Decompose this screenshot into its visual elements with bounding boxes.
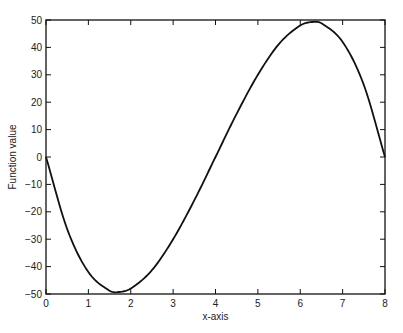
y-tick-label: −40: [25, 261, 42, 272]
y-tick-label: 40: [31, 42, 43, 53]
y-tick-label: −10: [25, 179, 42, 190]
x-tick-label: 3: [170, 298, 176, 309]
y-tick-label: −50: [25, 289, 42, 300]
y-axis-label: Function value: [7, 124, 18, 189]
y-tick-label: −30: [25, 234, 42, 245]
x-tick-label: 8: [382, 298, 388, 309]
x-tick-label: 6: [297, 298, 303, 309]
x-tick-label: 1: [86, 298, 92, 309]
x-tick-label: 7: [340, 298, 346, 309]
y-tick-label: 0: [36, 152, 42, 163]
x-tick-label: 2: [128, 298, 134, 309]
x-tick-label: 0: [43, 298, 49, 309]
y-tick-label: −20: [25, 206, 42, 217]
y-tick-label: 50: [31, 15, 43, 26]
x-tick-label: 5: [255, 298, 261, 309]
chart: 012345678−50−40−30−20−1001020304050x-axi…: [0, 0, 403, 333]
x-tick-label: 4: [213, 298, 219, 309]
y-tick-label: 20: [31, 97, 43, 108]
function-curve: [46, 22, 385, 293]
x-axis-label: x-axis: [202, 311, 228, 322]
y-tick-label: 30: [31, 69, 43, 80]
y-tick-label: 10: [31, 124, 43, 135]
